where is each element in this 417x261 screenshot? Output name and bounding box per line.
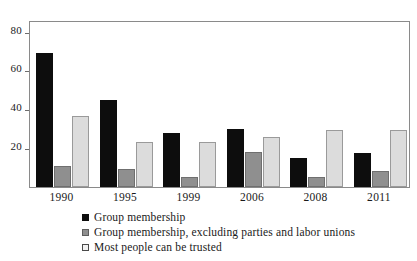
y-axis-tick-label: 80 (11, 25, 22, 36)
legend-item-label: Group membership, excluding parties and … (94, 226, 355, 239)
bar (54, 166, 71, 187)
y-axis-tick-label: 40 (11, 102, 22, 113)
bar (163, 133, 180, 187)
bar (308, 177, 325, 187)
light-square-icon (82, 244, 89, 251)
x-axis-label: 1990 (37, 191, 87, 203)
legend-item: Group membership (82, 210, 412, 225)
x-axis-label: 2011 (354, 191, 404, 203)
bar (263, 137, 280, 187)
legend-item-label: Most people can be trusted (94, 241, 222, 254)
x-axis-label: 1999 (164, 191, 214, 203)
y-axis-tick: 20 (0, 149, 29, 150)
bar-group (163, 22, 216, 187)
legend-item: Group membership, excluding parties and … (82, 225, 412, 240)
y-axis-tick: 80 (0, 33, 29, 34)
black-square-icon (82, 214, 89, 221)
bar (199, 142, 216, 187)
bar (100, 100, 117, 187)
bar (326, 130, 343, 187)
bar (290, 158, 307, 187)
bar (390, 130, 407, 187)
bar (372, 171, 389, 187)
x-axis-label: 2006 (227, 191, 277, 203)
bar (72, 116, 89, 187)
bar (181, 177, 198, 187)
bar (118, 169, 135, 187)
bar-group (354, 22, 407, 187)
y-axis-tick-label: 60 (11, 63, 22, 74)
y-axis-tick: 40 (0, 110, 29, 111)
x-axis-label: 1995 (100, 191, 150, 203)
y-axis-tick: 60 (0, 71, 29, 72)
bar (36, 53, 53, 187)
bar-chart: 20406080 199019951999200620082011 Group … (0, 0, 417, 261)
bar (354, 153, 371, 187)
bar-group (290, 22, 343, 187)
chart-legend: Group membershipGroup membership, exclud… (82, 210, 412, 255)
x-axis-label: 2008 (291, 191, 341, 203)
bar-group (227, 22, 280, 187)
plot-frame (29, 21, 410, 188)
bar-group (100, 22, 153, 187)
legend-item-label: Group membership (94, 211, 186, 224)
bar (227, 129, 244, 187)
bar (136, 142, 153, 187)
bar (245, 152, 262, 187)
plot-area (30, 22, 409, 187)
gray-square-icon (82, 229, 89, 236)
legend-item: Most people can be trusted (82, 240, 412, 255)
y-axis-tick-label: 20 (11, 141, 22, 152)
bar-group (36, 22, 89, 187)
